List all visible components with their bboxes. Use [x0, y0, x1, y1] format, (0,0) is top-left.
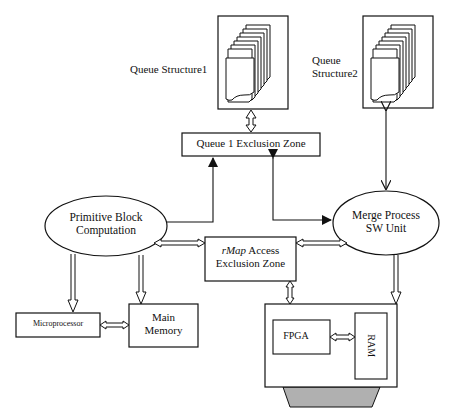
queue-structure-1: [218, 16, 288, 109]
microprocessor-label: Microprocessor: [16, 319, 100, 328]
merge-process-label: Merge Process SW Unit: [336, 209, 436, 235]
ram-label: RAM: [365, 324, 377, 368]
merge-process-line1: Merge Process: [336, 209, 436, 222]
board-connector: [283, 387, 380, 407]
arrow-primitive-queue1: [167, 158, 213, 222]
double-arrow-qs1-zone: [246, 110, 256, 132]
merge-process-line2: SW Unit: [336, 222, 436, 235]
queue-structure-1-label: Queue Structure1: [130, 63, 218, 76]
rmap-zone-line2: Exclusion Zone: [205, 257, 296, 270]
rmap-line1-rest: Access: [246, 244, 279, 256]
primitive-block-label: Primitive Block Computation: [56, 211, 156, 237]
arrow-primitive-microprocessor: [68, 254, 78, 312]
queue-structure-2-label-line1: Queue: [312, 54, 364, 67]
queue-structure-2-label: Queue Structure2: [312, 54, 364, 79]
primitive-block-line1: Primitive Block: [56, 211, 156, 224]
main-memory-line2: Memory: [129, 324, 198, 337]
diagram-canvas: [0, 0, 450, 415]
main-memory-label: Main Memory: [129, 311, 198, 336]
queue-structure-2-label-line2: Structure2: [312, 67, 364, 80]
double-arrow-rmap-merge: [296, 239, 347, 247]
arrow-primitive-mainmemory: [136, 255, 146, 304]
primitive-block-line2: Computation: [56, 224, 156, 237]
arrow-merge-queue1: [273, 158, 331, 220]
fpga-board: [265, 304, 397, 407]
double-arrow-micro-memory: [100, 321, 129, 329]
rmap-italic-text: rMap: [222, 244, 246, 256]
fpga-label: FPGA: [273, 330, 319, 342]
rmap-zone-label: rMap Access Exclusion Zone: [205, 244, 296, 269]
main-memory-line1: Main: [129, 311, 198, 324]
double-arrow-rmap-board: [286, 281, 294, 304]
double-arrow-primitive-rmap: [154, 239, 205, 247]
queue1-exclusion-zone-label: Queue 1 Exclusion Zone: [182, 137, 320, 150]
arrow-merge-board: [391, 255, 401, 304]
queue-structure-2: [363, 16, 433, 108]
rmap-zone-line1: rMap Access: [205, 244, 296, 257]
